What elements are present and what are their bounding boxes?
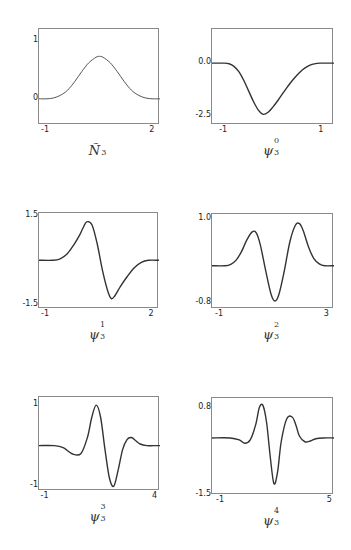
y-tick-label: 1 — [33, 400, 38, 408]
plot-frame-4 — [38, 396, 159, 490]
plot-area — [39, 29, 160, 125]
plot-area — [39, 397, 160, 491]
plot-area — [212, 29, 334, 125]
series-line — [39, 222, 159, 299]
subplot-caption: Ñ3 — [89, 142, 108, 158]
series-line — [212, 404, 334, 484]
y-tick-label: -1 — [30, 481, 38, 489]
series-line — [212, 223, 334, 301]
subplot-caption: ψ33 — [89, 508, 107, 524]
subplot-caption: ψ23 — [263, 326, 281, 342]
y-tick-label: 1 — [33, 36, 38, 44]
y-tick-label: 0.0 — [198, 58, 211, 66]
subplot-caption: ψ43 — [263, 512, 281, 528]
plot-frame-0 — [38, 28, 159, 124]
y-tick-label: -0.8 — [195, 298, 211, 306]
x-tick-label: -1 — [219, 126, 227, 134]
subplot-caption: ψ03 — [263, 142, 281, 158]
y-tick-label: 0 — [33, 94, 38, 102]
plot-area — [212, 398, 334, 495]
x-tick-label: 3 — [324, 310, 329, 318]
subplot-caption: ψ13 — [89, 326, 107, 342]
x-tick-label: 2 — [149, 126, 154, 134]
plot-area — [212, 214, 334, 309]
x-tick-label: 4 — [152, 492, 157, 500]
series-line — [39, 56, 160, 99]
plot-frame-5 — [211, 397, 333, 494]
x-tick-label: -1 — [41, 126, 49, 134]
y-tick-label: -1.5 — [22, 300, 38, 308]
y-tick-label: 0.8 — [198, 403, 211, 411]
plot-area — [39, 213, 159, 309]
y-tick-label: 1.0 — [198, 214, 211, 222]
series-line — [212, 63, 334, 114]
plot-frame-1 — [211, 28, 333, 124]
x-tick-label: -1 — [215, 310, 223, 318]
y-tick-label: 1.5 — [25, 211, 38, 219]
series-line — [39, 405, 160, 486]
plot-frame-2 — [38, 212, 158, 308]
x-tick-label: -1 — [41, 310, 49, 318]
y-tick-label: -2.5 — [195, 111, 211, 119]
x-tick-label: -1 — [216, 496, 224, 504]
x-tick-label: 5 — [327, 496, 332, 504]
y-tick-label: -1.5 — [195, 490, 211, 498]
plot-frame-3 — [211, 213, 333, 308]
x-tick-label: 1 — [318, 126, 323, 134]
x-tick-label: -1 — [41, 492, 49, 500]
x-tick-label: 2 — [148, 310, 153, 318]
